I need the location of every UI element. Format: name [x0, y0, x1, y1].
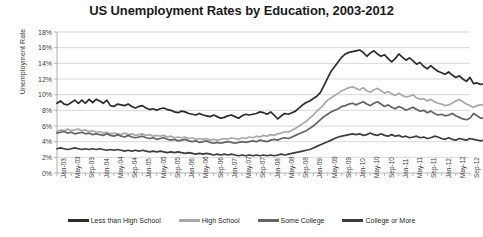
- x-tick-label: Sep-04: [131, 157, 138, 178]
- legend-swatch: [258, 219, 279, 222]
- series-lines: [57, 50, 483, 156]
- legend-swatch: [179, 219, 200, 222]
- gridlines: [54, 32, 470, 173]
- x-tick-label: Sep-09: [345, 157, 352, 178]
- x-tick-label: May-06: [202, 156, 209, 178]
- legend-item[interactable]: Some College: [258, 217, 325, 224]
- x-tick-label: Sep-12: [473, 157, 480, 178]
- x-tick-label: Sep-03: [88, 157, 95, 178]
- chart-legend: Less than High SchoolHigh SchoolSome Col…: [0, 217, 483, 224]
- x-tick-label: Jan-09: [316, 158, 323, 178]
- x-tick-label: Jan-08: [274, 158, 281, 178]
- x-tick-label: Jan-10: [359, 158, 366, 178]
- x-tick-label: May-04: [117, 156, 124, 178]
- x-tick-label: Jan-05: [145, 158, 152, 178]
- x-tick-label: May-10: [373, 156, 380, 178]
- x-tick-label: Sep-06: [217, 157, 224, 178]
- x-tick-label: May-07: [245, 156, 252, 178]
- x-tick-label: Sep-05: [174, 157, 181, 178]
- x-tick-label: Sep-07: [259, 157, 266, 178]
- x-tick-label: May-12: [459, 156, 466, 178]
- x-tick-label: Sep-08: [302, 157, 309, 178]
- x-tick-label: Jan-03: [60, 158, 67, 178]
- x-tick-label: Sep-10: [388, 157, 395, 178]
- plot-area: [0, 0, 483, 237]
- legend-swatch: [68, 219, 89, 222]
- legend-item[interactable]: High School: [179, 217, 240, 224]
- x-tick-label: May-09: [331, 156, 338, 178]
- legend-label: Some College: [281, 217, 325, 224]
- legend-item[interactable]: College or More: [342, 217, 415, 224]
- legend-item[interactable]: Less than High School: [68, 217, 161, 224]
- legend-label: College or More: [365, 217, 415, 224]
- x-tick-label: Jan-04: [103, 158, 110, 178]
- legend-swatch: [342, 219, 363, 222]
- x-tick-label: May-11: [416, 157, 423, 178]
- x-tick-label: Jan-11: [402, 159, 409, 178]
- x-tick-label: Jan-12: [445, 158, 452, 178]
- x-tick-label: Sep-11: [430, 158, 437, 178]
- x-tick-label: May-05: [160, 156, 167, 178]
- unemployment-line-chart: US Unemployment Rates by Education, 2003…: [0, 0, 483, 237]
- x-tick-label: May-08: [288, 156, 295, 178]
- legend-label: Less than High School: [91, 217, 161, 224]
- legend-label: High School: [202, 217, 240, 224]
- x-tick-label: Jan-06: [188, 158, 195, 178]
- x-tick-label: May-03: [74, 156, 81, 178]
- series-line: [57, 50, 483, 119]
- x-tick-label: Jan-07: [231, 158, 238, 178]
